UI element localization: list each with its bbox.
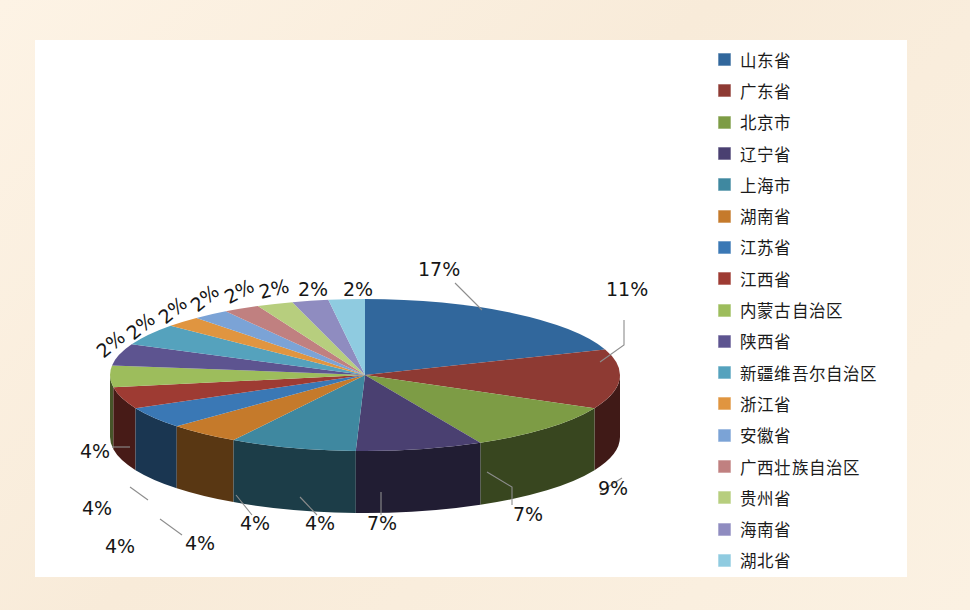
pie-data-label: 11% — [606, 278, 648, 300]
legend-label: 安徽省 — [740, 423, 792, 447]
legend-item[interactable]: 上海市 — [718, 169, 908, 200]
legend-item[interactable]: 安徽省 — [718, 420, 908, 451]
pie-data-label: 4% — [185, 532, 215, 554]
legend-label: 贵州省 — [740, 486, 792, 510]
legend-label: 山东省 — [740, 48, 792, 72]
legend-label: 湖北省 — [740, 548, 792, 572]
pie-data-label: 4% — [105, 535, 135, 557]
legend-label: 广西壮族自治区 — [740, 455, 860, 479]
legend-swatch-icon — [718, 397, 731, 410]
legend-swatch-icon — [718, 523, 731, 536]
pie-side-wall — [234, 440, 356, 513]
legend: 山东省广东省北京市辽宁省上海市湖南省江苏省江西省内蒙古自治区陕西省新疆维吾尔自治… — [718, 44, 908, 576]
pie-data-label: 4% — [240, 512, 270, 534]
legend-label: 内蒙古自治区 — [740, 298, 843, 322]
legend-label: 江西省 — [740, 267, 792, 291]
pie-data-label: 4% — [80, 440, 110, 462]
legend-item[interactable]: 广东省 — [718, 75, 908, 106]
legend-swatch-icon — [718, 53, 731, 66]
pie-data-label: 17% — [418, 258, 460, 280]
legend-item[interactable]: 江苏省 — [718, 232, 908, 263]
legend-swatch-icon — [718, 335, 731, 348]
legend-swatch-icon — [718, 429, 731, 442]
legend-swatch-icon — [718, 272, 731, 285]
legend-item[interactable]: 海南省 — [718, 513, 908, 544]
legend-swatch-icon — [718, 147, 731, 160]
pie-data-label: 7% — [367, 512, 397, 534]
chart-figure: 17%11%9%7%7%4%4%4%4%4%4%2%2%2%2%2%2%2%2%… — [0, 0, 970, 610]
legend-swatch-icon — [718, 178, 731, 191]
legend-item[interactable]: 辽宁省 — [718, 138, 908, 169]
legend-item[interactable]: 北京市 — [718, 107, 908, 138]
legend-item[interactable]: 贵州省 — [718, 482, 908, 513]
pie-data-label: 7% — [513, 503, 543, 525]
pie-svg — [55, 255, 675, 555]
legend-swatch-icon — [718, 304, 731, 317]
legend-item[interactable]: 陕西省 — [718, 326, 908, 357]
legend-item[interactable]: 内蒙古自治区 — [718, 294, 908, 325]
legend-item[interactable]: 新疆维吾尔自治区 — [718, 357, 908, 388]
legend-item[interactable]: 湖北省 — [718, 545, 908, 576]
legend-swatch-icon — [718, 554, 731, 567]
legend-label: 湖南省 — [740, 204, 792, 228]
legend-swatch-icon — [718, 116, 731, 129]
legend-item[interactable]: 浙江省 — [718, 388, 908, 419]
legend-label: 浙江省 — [740, 392, 792, 416]
pie-chart — [55, 255, 675, 555]
legend-swatch-icon — [718, 210, 731, 223]
legend-item[interactable]: 山东省 — [718, 44, 908, 75]
legend-item[interactable]: 湖南省 — [718, 200, 908, 231]
legend-swatch-icon — [718, 241, 731, 254]
legend-swatch-icon — [718, 84, 731, 97]
legend-swatch-icon — [718, 460, 731, 473]
legend-label: 广东省 — [740, 79, 792, 103]
legend-label: 北京市 — [740, 110, 792, 134]
legend-label: 海南省 — [740, 517, 792, 541]
legend-label: 新疆维吾尔自治区 — [740, 361, 878, 385]
pie-data-label: 4% — [82, 497, 112, 519]
pie-data-label: 4% — [305, 512, 335, 534]
pie-data-label: 9% — [598, 477, 628, 499]
pie-data-label: 2% — [343, 278, 373, 300]
pie-side-wall — [356, 443, 481, 513]
legend-label: 陕西省 — [740, 329, 792, 353]
legend-label: 辽宁省 — [740, 142, 792, 166]
legend-item[interactable]: 江西省 — [718, 263, 908, 294]
legend-label: 上海市 — [740, 173, 792, 197]
pie-data-label: 2% — [298, 278, 328, 300]
legend-swatch-icon — [718, 491, 731, 504]
legend-swatch-icon — [718, 366, 731, 379]
legend-label: 江苏省 — [740, 235, 792, 259]
legend-item[interactable]: 广西壮族自治区 — [718, 451, 908, 482]
